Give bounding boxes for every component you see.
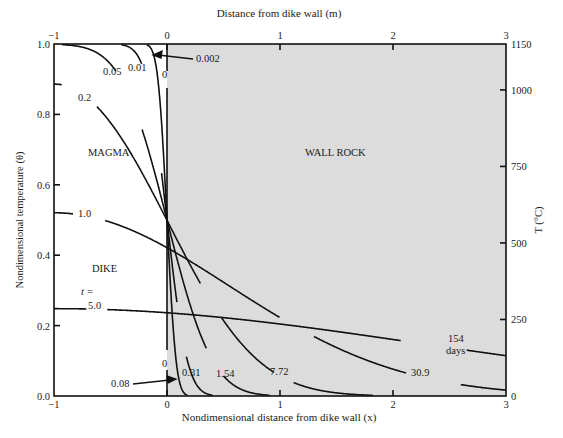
label-t-0-top: 0	[162, 69, 167, 80]
y-tick-label: 0.6	[37, 180, 50, 191]
x-tick-label: 1	[277, 399, 282, 410]
label-t-0.01: 0.01	[128, 62, 146, 73]
top-x-tick-label: 1	[277, 30, 282, 41]
top-x-tick-label: 2	[390, 30, 395, 41]
label-days-0-bottom: 0	[162, 358, 167, 369]
label-days-unit: days	[446, 345, 465, 356]
dike-cooling-chart: −1−1001122330.00.20.40.60.81.00250500750…	[0, 0, 563, 438]
label-t-0.2: 0.2	[78, 92, 91, 103]
x-tick-label: 2	[390, 399, 395, 410]
right-y-tick-label: 1150	[511, 39, 532, 50]
y-tick-label: 0.4	[37, 250, 51, 261]
label-t-0.05: 0.05	[103, 66, 121, 77]
label-t-5.0: 5.0	[88, 300, 101, 311]
y-tick-label: 1.0	[37, 39, 50, 50]
dike-label: DIKE	[92, 263, 117, 274]
right-y-tick-label: 250	[511, 314, 527, 325]
x-tick-label: −1	[48, 399, 59, 410]
label-t-prefix: t =	[81, 286, 94, 297]
right-y-tick-label: 0	[511, 391, 516, 402]
label-t-1.0: 1.0	[78, 208, 91, 219]
y-tick-label: 0.2	[37, 321, 50, 332]
top-axis-title: Distance from dike wall (m)	[217, 7, 342, 20]
arrow-0.08	[133, 380, 170, 384]
magma-label: MAGMA	[88, 147, 130, 158]
bottom-axis-title: Nondimensional distance from dike wall (…	[182, 411, 377, 424]
x-tick-label: 0	[164, 399, 169, 410]
label-days-0.31: 0.31	[182, 367, 200, 378]
label-days-0.08: 0.08	[111, 378, 129, 389]
x-tick-label: 3	[503, 399, 508, 410]
y-tick-label: 0.0	[37, 391, 50, 402]
right-y-tick-label: 750	[511, 161, 527, 172]
left-axis-title: Nondimensional temperature (θ)	[14, 151, 26, 288]
y-tick-label: 0.8	[37, 109, 50, 120]
top-x-tick-label: 0	[164, 30, 169, 41]
right-axis-title: T (°C)	[533, 206, 545, 234]
label-days-1.54: 1.54	[216, 368, 235, 379]
right-y-tick-label: 500	[511, 238, 527, 249]
label-days-154: 154	[448, 333, 465, 344]
right-y-tick-label: 1000	[511, 85, 532, 96]
top-x-tick-label: 3	[503, 30, 508, 41]
label-days-7.72: 7.72	[270, 366, 288, 377]
label-0.002: 0.002	[196, 53, 220, 64]
label-days-30.9: 30.9	[411, 367, 429, 378]
wall-rock-label: WALL ROCK	[305, 147, 366, 158]
top-x-tick-label: −1	[48, 30, 59, 41]
